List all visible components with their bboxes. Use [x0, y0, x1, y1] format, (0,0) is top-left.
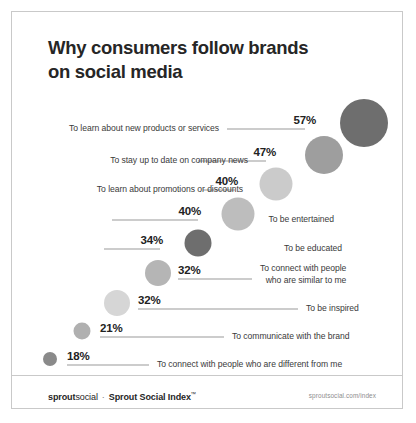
site-url: sproutsocial.com/index — [309, 392, 376, 399]
category-label: To be entertained — [268, 214, 334, 226]
bubble-chart: 57%To learn about new products or servic… — [12, 12, 404, 372]
report-name: Sprout Social Index — [109, 392, 191, 402]
category-label: To be educated — [284, 243, 342, 255]
brand-separator: · — [102, 392, 105, 402]
category-label: To be inspired — [306, 303, 359, 315]
leader-line — [67, 365, 149, 366]
value-label: 18% — [67, 350, 89, 362]
leader-line — [112, 220, 198, 221]
category-label: To learn about promotions or discounts — [97, 184, 243, 196]
brand-lockup: sproutsocial·Sprout Social Index™ — [48, 391, 196, 402]
infographic-card: Why consumers follow brands on social me… — [11, 11, 403, 409]
value-label: 40% — [179, 205, 201, 217]
category-label: To stay up to date on company news — [110, 155, 248, 167]
brand-name-bold: sprout — [48, 392, 75, 402]
category-label: To learn about new products or services — [69, 123, 219, 135]
trademark-symbol: ™ — [191, 391, 196, 397]
leader-line — [178, 279, 252, 280]
category-label: To communicate with the brand — [232, 331, 350, 343]
leader-line — [227, 129, 305, 130]
category-label-line: who are similar to me — [260, 275, 346, 287]
value-bubble — [145, 260, 171, 286]
value-bubble — [74, 323, 91, 340]
category-label-line: To connect with people — [260, 263, 346, 275]
value-label: 57% — [294, 114, 316, 126]
leader-line — [100, 337, 224, 338]
category-label: To connect with people who are different… — [157, 359, 342, 371]
value-label: 47% — [254, 146, 276, 158]
value-bubble — [305, 136, 343, 174]
value-label: 32% — [178, 264, 200, 276]
brand-name-rest: social — [75, 392, 97, 402]
value-bubble — [43, 352, 57, 366]
leader-line — [104, 249, 160, 250]
value-bubble — [185, 230, 212, 257]
value-label: 21% — [100, 322, 122, 334]
value-label: 34% — [141, 234, 163, 246]
footer: sproutsocial·Sprout Social Index™ sprout… — [12, 375, 402, 409]
value-bubble — [260, 168, 293, 201]
leader-line — [138, 309, 298, 310]
value-bubble — [104, 290, 130, 316]
value-bubble — [340, 99, 388, 147]
value-label: 32% — [138, 294, 160, 306]
category-label: To connect with peoplewho are similar to… — [260, 263, 346, 286]
value-bubble — [222, 198, 255, 231]
